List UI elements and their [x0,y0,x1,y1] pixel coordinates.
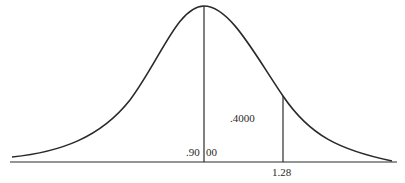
right-area-label: 00 [206,147,217,158]
z-value-label: 1.28 [272,167,291,178]
shaded-area-label: .4000 [230,113,255,124]
normal-curve-diagram [0,0,405,183]
bell-curve [12,6,392,161]
left-area-label: .90 [186,147,200,158]
